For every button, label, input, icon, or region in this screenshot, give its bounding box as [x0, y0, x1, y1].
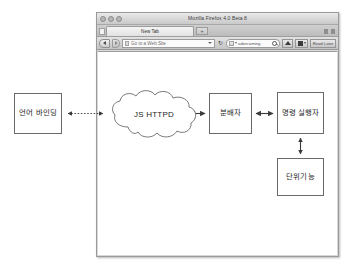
diagram-node-unit-function[interactable]: 단위기능 [277, 158, 324, 196]
search-box[interactable]: adorcaming [226, 39, 280, 48]
browser-titlebar[interactable]: Mozilla Firefox 4.0 Beta 8 [97, 13, 338, 25]
back-button[interactable] [99, 39, 110, 48]
chevron-down-icon [304, 42, 306, 44]
new-tab-button[interactable]: + [196, 27, 208, 35]
tab-list-icon[interactable] [324, 29, 328, 34]
diagram-node-js-httpd[interactable]: JS HTTPD [108, 89, 200, 139]
tab-new-tab[interactable]: New Tab [106, 26, 194, 36]
bookmark-icon [298, 41, 303, 46]
diagram-node-language-binding[interactable]: 언어 바인딩 [14, 93, 62, 134]
diagram-node-label: 분배자 [220, 109, 241, 118]
search-icon[interactable] [272, 41, 277, 46]
forward-button[interactable] [112, 39, 120, 48]
forward-arrow-icon [115, 41, 118, 45]
read-later-button[interactable]: Read Later [310, 39, 336, 48]
read-later-label: Read Later [313, 40, 334, 47]
diagram-node-label: 언어 바인딩 [19, 109, 57, 118]
tab-label: New Tab [141, 28, 159, 36]
address-bar[interactable]: Go to a Web Site [122, 39, 215, 48]
diagram-node-label: JS HTTPD [108, 89, 200, 139]
back-arrow-icon [103, 41, 106, 45]
search-input[interactable]: adorcaming [238, 40, 272, 47]
bookmarks-button[interactable] [295, 39, 308, 48]
page-viewport [98, 51, 337, 255]
search-engine-icon[interactable] [229, 41, 234, 46]
navigation-toolbar: Go to a Web Site ↻ adorcaming Read Later [97, 37, 338, 50]
diagram-node-label: 명령 실행자 [282, 109, 320, 118]
chevron-down-icon[interactable] [208, 42, 212, 44]
app-menu-icon[interactable] [331, 29, 335, 34]
home-button[interactable] [282, 39, 293, 48]
site-identity-icon [125, 41, 129, 46]
home-icon [285, 41, 291, 45]
window-title: Mozilla Firefox 4.0 Beta 8 [97, 13, 338, 24]
reload-button[interactable]: ↻ [217, 39, 224, 48]
tab-favicon-icon [99, 28, 105, 35]
diagram-node-command-executor[interactable]: 명령 실행자 [277, 92, 324, 134]
diagram-node-label: 단위기능 [286, 173, 314, 182]
diagram-node-dispatcher[interactable]: 분배자 [209, 93, 252, 134]
chevron-down-icon[interactable] [235, 42, 237, 44]
address-bar-placeholder: Go to a Web Site [131, 40, 206, 47]
tab-strip: New Tab + [97, 25, 338, 37]
tabstrip-right-controls [324, 29, 335, 34]
